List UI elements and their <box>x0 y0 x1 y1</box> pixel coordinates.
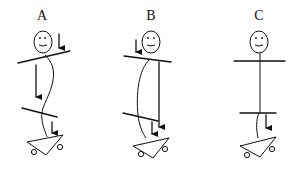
figure-label-a: A <box>37 8 48 23</box>
figure-label-c: C <box>254 8 263 23</box>
figure-label-b: B <box>146 8 155 23</box>
skateboard-icon <box>240 137 276 158</box>
skateboard-icon <box>27 135 63 155</box>
head-icon <box>34 31 52 53</box>
hip-line <box>123 113 158 121</box>
figure-c: C <box>234 8 285 158</box>
hip-line <box>22 108 57 117</box>
head-icon <box>142 31 160 53</box>
head-icon <box>250 31 268 53</box>
figure-a: A <box>18 8 70 155</box>
spine <box>137 59 150 138</box>
skateboard-icon <box>133 138 169 158</box>
spine-lower <box>257 113 259 138</box>
diagram-canvas: A B <box>0 0 299 169</box>
figure-b: B <box>123 8 171 158</box>
